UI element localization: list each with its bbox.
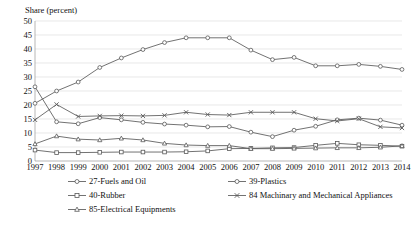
x-axis-tick-label: 1998 — [48, 163, 65, 172]
x-axis-tick-label: 2002 — [134, 163, 151, 172]
x-axis-tick-label: 2004 — [178, 163, 195, 172]
x-axis-tick-label: 2011 — [329, 163, 346, 172]
y-axis-tick-label: 10 — [24, 129, 33, 138]
legend-item[interactable]: 84 Machinary and Mechanical Appliances — [228, 190, 393, 203]
x-axis-tick-label: 2014 — [394, 163, 411, 172]
legend-item-label: 27-Fuels and Oil — [89, 176, 146, 187]
legend-item-content: 40-Rubber — [68, 190, 125, 201]
legend-item[interactable]: 85-Electrical Equipments — [68, 204, 176, 217]
x-axis-tick-label: 2013 — [372, 163, 389, 172]
x-axis-tick-label: 2008 — [264, 163, 281, 172]
legend-item-content: 84 Machinary and Mechanical Appliances — [228, 190, 393, 201]
legend-item[interactable]: 27-Fuels and Oil — [68, 176, 146, 189]
y-axis-tick-label: 50 — [24, 17, 33, 26]
square-marker-icon — [68, 191, 86, 200]
x-axis-tick-label: 2001 — [113, 163, 130, 172]
legend-item-label: 39-Plastics — [249, 176, 286, 187]
legend-item-content: 27-Fuels and Oil — [68, 176, 146, 187]
y-axis-tick-label: 40 — [24, 45, 33, 54]
y-axis-tick-label: 15 — [24, 115, 33, 124]
x-axis-tick-label: 2012 — [350, 163, 367, 172]
y-axis-tick-label: 45 — [24, 31, 33, 40]
circle-marker-icon — [68, 177, 86, 186]
legend-item-label: 40-Rubber — [89, 190, 125, 201]
circle-marker-icon — [228, 177, 246, 186]
x-axis-tick-label: 1997 — [27, 163, 44, 172]
y-axis-tick-label: 25 — [24, 87, 33, 96]
x-axis-tick-label: 2006 — [221, 163, 238, 172]
y-axis-tick-label: 20 — [24, 101, 33, 110]
y-axis-tick-label: 5 — [28, 143, 32, 152]
legend-item-content: 85-Electrical Equipments — [68, 204, 176, 215]
x-axis-tick-label: 2010 — [307, 163, 324, 172]
legend-item[interactable]: 40-Rubber — [68, 190, 125, 203]
x-axis-tick-label: 2003 — [156, 163, 173, 172]
line-chart-plot — [35, 21, 402, 161]
legend-item-label: 84 Machinary and Mechanical Appliances — [249, 190, 393, 201]
plot-area: 05101520253035404550 1997199819992000200… — [35, 21, 402, 161]
y-axis-tick-label: 30 — [24, 73, 33, 82]
legend-item-content: 39-Plastics — [228, 176, 286, 187]
x-axis-tick-label: 2007 — [242, 163, 259, 172]
x-axis-tick-label: 2005 — [199, 163, 216, 172]
y-axis-title: Share (percent) — [25, 5, 77, 15]
x-marker-icon — [228, 191, 246, 200]
triangle-marker-icon — [68, 205, 86, 214]
chart-container: Share (percent) 05101520253035404550 199… — [0, 0, 412, 229]
x-axis-tick-label: 2009 — [286, 163, 303, 172]
legend-item[interactable]: 39-Plastics — [228, 176, 286, 189]
x-axis-tick-label: 2000 — [91, 163, 108, 172]
chart-legend: 27-Fuels and Oil39-Plastics40-Rubber84 M… — [0, 176, 412, 229]
legend-item-label: 85-Electrical Equipments — [89, 204, 176, 215]
y-axis-tick-label: 35 — [24, 59, 33, 68]
x-axis-tick-label: 1999 — [70, 163, 87, 172]
